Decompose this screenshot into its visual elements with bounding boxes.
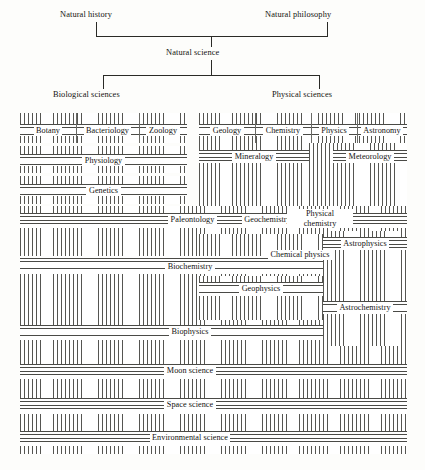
- hatch-vertical: [199, 136, 407, 143]
- hatch-vertical: [20, 176, 187, 184]
- tree-connector-science-stem: [211, 60, 212, 75]
- field-box-row4: Paleontology Geochemistry Physical chemi…: [20, 206, 407, 234]
- hatch-vertical: [199, 143, 309, 150]
- field-box-space-science: Space science: [20, 379, 407, 414]
- tree-connector-physical-stem: [319, 75, 320, 89]
- field-box-physical-row1: Geology Chemistry Physics Astronomy: [199, 113, 407, 143]
- field-column-biological-tall-b: [20, 283, 198, 320]
- tree-node-natural-history: Natural history: [60, 10, 112, 19]
- tree-node-physical-sciences: Physical sciences: [272, 90, 332, 99]
- hatch-vertical: [20, 414, 407, 431]
- hatch-vertical: [20, 346, 407, 364]
- field-column-astronomy-tall: [333, 173, 407, 206]
- hatch-vertical: [199, 163, 309, 173]
- field-column-astro-filler: [323, 256, 407, 264]
- field-label-biochemistry: Biochemistry: [110, 262, 270, 271]
- field-label-mineralogy: Mineralogy: [199, 152, 309, 161]
- hatch-vertical: [20, 196, 187, 204]
- hatch-vertical: [199, 173, 309, 206]
- field-box-meteorology: Meteorology: [333, 143, 407, 173]
- hatch-vertical: [333, 143, 407, 150]
- hatch-vertical: [309, 173, 333, 206]
- field-label-environmental-science: Environmental science: [90, 433, 290, 442]
- hatch-vertical: [20, 283, 198, 320]
- tree-connector-biological-stem: [103, 75, 104, 89]
- field-box-mineralogy: Mineralogy: [199, 143, 309, 173]
- field-column-chemistry-tall: [309, 173, 333, 206]
- hatch-vertical: [309, 143, 333, 173]
- tree-node-natural-philosophy: Natural philosophy: [265, 10, 331, 19]
- hatch-vertical: [20, 379, 407, 398]
- tree-connector-mid-bar: [103, 75, 320, 76]
- tree-node-biological-sciences: Biological sciences: [53, 90, 120, 99]
- hatch-vertical: [20, 166, 187, 173]
- field-label-zoology: Zoology: [139, 126, 187, 135]
- field-box-biological-row1: Botany Bacteriology Zoology: [20, 113, 187, 143]
- field-label-chemistry: Chemistry: [255, 126, 311, 135]
- tree-node-natural-science: Natural science: [166, 48, 219, 57]
- field-box-geophysics: Geophysics: [199, 276, 323, 302]
- hatch-vertical: [333, 163, 407, 173]
- field-label-physics: Physics: [311, 126, 357, 135]
- field-box-genetics: Genetics: [20, 176, 187, 204]
- field-box-physiology: Physiology: [20, 146, 187, 173]
- field-label-meteorology: Meteorology: [333, 152, 407, 161]
- hatch-vertical: [20, 446, 407, 454]
- field-label-chemical-physics: Chemical physics: [267, 250, 333, 260]
- field-label-biophysics: Biophysics: [110, 327, 270, 336]
- field-box-astrophysics: Astrophysics: [323, 231, 407, 256]
- tree-connector-history-stem: [96, 22, 97, 36]
- field-label-astronomy: Astronomy: [357, 126, 407, 135]
- field-label-physical-chemistry: Physical chemistry: [287, 209, 353, 228]
- field-label-astrochemistry: Astrochemistry: [323, 303, 407, 312]
- hatch-vertical: [20, 136, 187, 143]
- field-label-space-science: Space science: [110, 400, 270, 409]
- field-gap-chemistry-column: [309, 143, 333, 173]
- field-box-moon-science: Moon science: [20, 346, 407, 379]
- field-label-genetics: Genetics: [20, 186, 187, 195]
- field-label-astrophysics: Astrophysics: [323, 239, 407, 248]
- tree-connector-top-bar: [96, 36, 328, 37]
- tree-connector-to-natural-science: [211, 36, 212, 47]
- field-box-astrochemistry: Astrochemistry: [323, 295, 407, 320]
- field-box-environmental-science: Environmental science: [20, 414, 407, 454]
- natural-science-diagram: Natural history Natural philosophy Natur…: [0, 0, 425, 470]
- field-label-geology: Geology: [199, 126, 255, 135]
- hatch-vertical: [199, 113, 407, 124]
- hatch-vertical: [20, 113, 187, 124]
- hatch-vertical: [323, 256, 407, 264]
- field-label-moon-science: Moon science: [110, 366, 270, 375]
- field-label-bacteriology: Bacteriology: [76, 126, 139, 135]
- field-label-geophysics: Geophysics: [199, 284, 323, 293]
- field-label-botany: Botany: [20, 126, 76, 135]
- field-label-physiology: Physiology: [20, 156, 187, 165]
- hatch-vertical: [333, 173, 407, 206]
- tree-connector-philosophy-stem: [327, 22, 328, 36]
- hatch-vertical: [20, 146, 187, 154]
- field-box-biophysics: Biophysics: [20, 320, 323, 346]
- field-column-geology-tall: [199, 173, 309, 206]
- hatch-vertical: [323, 320, 407, 346]
- field-column-astro-tall-c: [323, 320, 407, 346]
